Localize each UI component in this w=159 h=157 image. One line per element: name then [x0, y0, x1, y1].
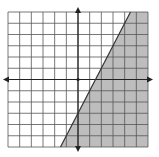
arrow-up-icon — [75, 7, 81, 13]
arrow-right-icon — [147, 77, 153, 83]
origin-point — [76, 78, 79, 81]
arrow-left-icon — [3, 77, 9, 83]
arrow-down-icon — [75, 146, 81, 152]
inequality-graph — [0, 0, 159, 157]
